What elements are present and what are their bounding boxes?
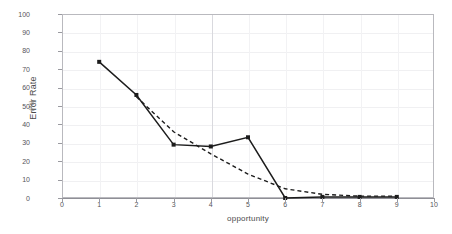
x-tick-label: 3 (164, 201, 184, 208)
gridline-vertical (398, 15, 399, 197)
gridline-horizontal (63, 52, 433, 53)
gridline-vertical (100, 15, 101, 197)
y-tick-mark (58, 180, 62, 181)
y-tick-label: 100 (6, 11, 30, 18)
x-tick-label: 6 (275, 201, 295, 208)
y-tick-mark (58, 14, 62, 15)
x-axis-title: opportunity (62, 214, 434, 223)
y-tick-label: 0 (6, 195, 30, 202)
y-tick-mark (58, 143, 62, 144)
y-tick-label: 60 (6, 84, 30, 91)
gridline-vertical (249, 15, 250, 197)
y-tick-label: 80 (6, 47, 30, 54)
x-tick-label: 9 (387, 201, 407, 208)
y-tick-mark (58, 32, 62, 33)
gridline-vertical (361, 15, 362, 197)
y-tick-mark (58, 51, 62, 52)
gridline-horizontal (63, 162, 433, 163)
y-tick-label: 40 (6, 121, 30, 128)
gridline-vertical (175, 15, 176, 197)
gridline-horizontal (63, 144, 433, 145)
error-rate-chart: Error Rate (%) opportunity 0102030405060… (0, 0, 452, 234)
gridline-vertical (212, 15, 213, 197)
x-tick-label: 2 (126, 201, 146, 208)
x-tick-label: 8 (350, 201, 370, 208)
x-tick-label: 10 (424, 201, 444, 208)
y-tick-label: 30 (6, 139, 30, 146)
y-tick-mark (58, 106, 62, 107)
y-tick-label: 90 (6, 29, 30, 36)
gridline-horizontal (63, 89, 433, 90)
y-tick-mark (58, 88, 62, 89)
gridline-horizontal (63, 125, 433, 126)
gridline-vertical (323, 15, 324, 197)
gridline-horizontal (63, 181, 433, 182)
y-tick-label: 20 (6, 158, 30, 165)
gridline-vertical (137, 15, 138, 197)
gridline-vertical (286, 15, 287, 197)
y-tick-label: 10 (6, 176, 30, 183)
x-tick-label: 1 (89, 201, 109, 208)
x-tick-label: 7 (312, 201, 332, 208)
x-tick-label: 0 (52, 201, 72, 208)
x-tick-label: 4 (201, 201, 221, 208)
y-tick-mark (58, 161, 62, 162)
y-tick-mark (58, 124, 62, 125)
x-tick-label: 5 (238, 201, 258, 208)
gridline-horizontal (63, 70, 433, 71)
gridline-horizontal (63, 33, 433, 34)
y-tick-mark (58, 69, 62, 70)
y-tick-label: 70 (6, 66, 30, 73)
plot-area (62, 14, 434, 198)
y-tick-label: 50 (6, 103, 30, 110)
gridline-horizontal (63, 107, 433, 108)
